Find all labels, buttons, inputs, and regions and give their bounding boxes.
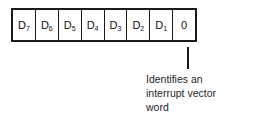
bit-cell-d4: D4: [82, 10, 105, 40]
callout-line-2: interrupt vector: [146, 86, 254, 100]
bit-cell-d1-label: D1: [155, 20, 167, 31]
diagram-canvas: D7 D6 D5 D4 D3 D2 D1 0 Identifies an int…: [0, 0, 256, 124]
bit-cell-d3-label: D3: [110, 20, 122, 31]
bit-cell-d7: D7: [13, 10, 36, 40]
callout-line-1: Identifies an: [146, 72, 254, 86]
bit-cell-d5: D5: [59, 10, 82, 40]
bit-cell-d2: D2: [127, 10, 150, 40]
bit-cell-d3: D3: [105, 10, 128, 40]
bit-cell-d5-label: D5: [64, 20, 76, 31]
bit-cell-zero: 0: [173, 10, 195, 40]
bit-cell-d1: D1: [150, 10, 173, 40]
bit-cell-d6: D6: [36, 10, 59, 40]
callout-line-3: word: [146, 100, 254, 114]
bit-cell-zero-label: 0: [181, 20, 187, 31]
bit-cell-d4-label: D4: [87, 20, 99, 31]
bit-cell-d2-label: D2: [132, 20, 144, 31]
bit-field-box: D7 D6 D5 D4 D3 D2 D1 0: [11, 8, 197, 42]
callout-leader-line: [187, 47, 189, 69]
bit-cell-d6-label: D6: [41, 20, 53, 31]
bit-cell-d7-label: D7: [18, 20, 30, 31]
callout-annotation: Identifies an interrupt vector word: [146, 72, 254, 114]
